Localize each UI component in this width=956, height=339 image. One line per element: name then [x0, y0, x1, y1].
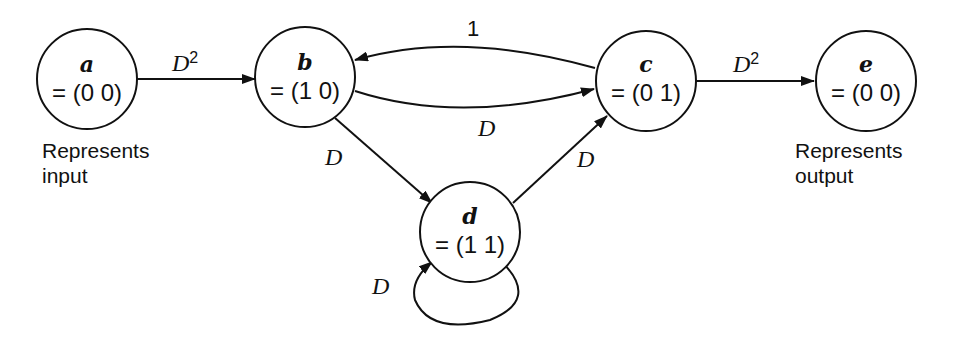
- edge-c-e-sup: 2: [750, 50, 759, 67]
- caption-input-line2: input: [42, 164, 88, 187]
- node-d-label: d: [462, 203, 477, 229]
- edge-b-c: D: [355, 89, 594, 141]
- node-e-value: = (0 0): [831, 79, 901, 106]
- node-c-label: c: [639, 51, 653, 77]
- node-a-label: a: [80, 51, 94, 77]
- node-a: a = (0 0): [37, 29, 137, 129]
- caption-output-line2: output: [795, 164, 854, 187]
- edge-b-d-label: D: [324, 144, 342, 170]
- node-d-value: = (1 1): [435, 231, 505, 258]
- caption-input-line1: Represents: [42, 139, 149, 162]
- node-c: c = (0 1): [596, 31, 696, 131]
- caption-output: Represents output: [795, 139, 902, 187]
- node-b-value: = (1 0): [270, 77, 340, 104]
- svg-text:D2: D2: [171, 49, 198, 76]
- caption-input: Represents input: [42, 139, 149, 187]
- edge-d-c-label: D: [576, 146, 594, 172]
- edge-b-c-label: D: [477, 115, 495, 141]
- node-e-label: e: [859, 51, 873, 77]
- edge-b-d: D: [324, 118, 432, 203]
- caption-output-line1: Represents: [795, 139, 902, 162]
- edge-d-c: D: [513, 116, 607, 203]
- node-b-label: b: [297, 49, 312, 75]
- edge-c-b-label: 1: [467, 16, 479, 41]
- node-e: e = (0 0): [816, 31, 916, 131]
- edge-a-b-sup: 2: [189, 49, 198, 66]
- node-a-value: = (0 0): [52, 79, 122, 106]
- node-d: d = (1 1): [420, 182, 520, 282]
- node-c-value: = (0 1): [611, 79, 681, 106]
- edge-a-b-label: D: [171, 50, 189, 76]
- edge-d-d-label: D: [371, 273, 389, 299]
- node-b: b = (1 0): [255, 27, 355, 127]
- edge-c-b: 1: [355, 16, 595, 68]
- edge-c-e: D2: [696, 50, 814, 81]
- state-diagram: D2 1 D D D D D2 a = (0 0) b = (1 0) c = …: [0, 0, 956, 339]
- svg-text:D2: D2: [732, 50, 759, 77]
- edge-c-e-label: D: [732, 51, 750, 77]
- edge-a-b: D2: [137, 49, 255, 79]
